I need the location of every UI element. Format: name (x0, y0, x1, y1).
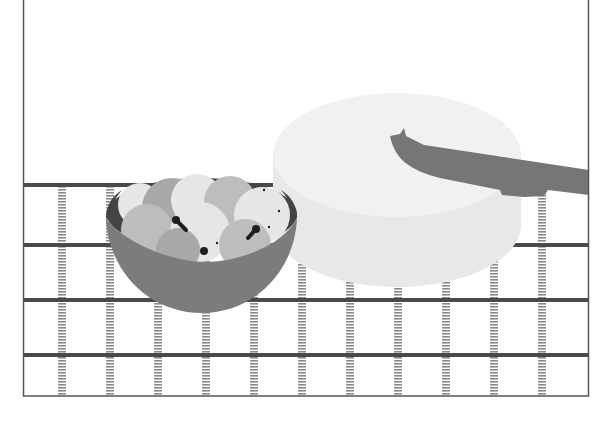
cheese-wheel (273, 93, 521, 287)
illustration (0, 0, 608, 428)
